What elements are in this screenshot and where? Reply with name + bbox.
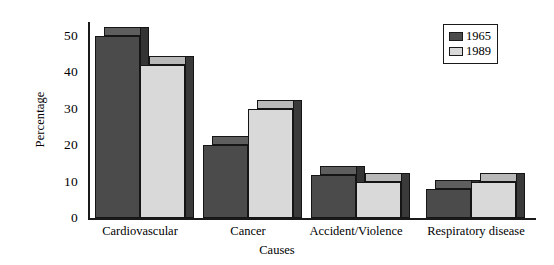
y-tick-label: 10 — [50, 175, 78, 189]
legend-swatch-icon-1989 — [449, 47, 463, 56]
x-category-label-cardiovascular: Cardiovascular — [80, 224, 200, 239]
y-tick-10: 10 — [50, 175, 78, 189]
bar-front-face — [140, 65, 185, 218]
y-axis-line — [88, 22, 90, 219]
bar-1965-respiratory-disease — [426, 189, 471, 218]
bar-side-face — [293, 100, 302, 218]
legend-item-1965: 1965 — [449, 29, 491, 44]
legend-label-1965: 1965 — [466, 30, 491, 43]
bar-front-face — [356, 182, 401, 218]
y-tick-50: 50 — [50, 29, 78, 43]
x-axis-title: Causes — [0, 243, 554, 258]
y-axis-title: Percentage — [33, 60, 48, 180]
y-tick-label: 20 — [50, 138, 78, 152]
bar-front-face — [95, 36, 140, 218]
y-tick-0: 0 — [50, 211, 78, 225]
bar-chart: Percentage 0 10 20 30 40 50 — [0, 0, 554, 265]
y-tick-label: 50 — [50, 29, 78, 43]
legend-item-1989: 1989 — [449, 44, 491, 59]
bar-side-face — [185, 56, 194, 218]
bar-1965-cardiovascular — [95, 36, 140, 218]
bar-front-face — [471, 182, 516, 218]
y-tick-label: 0 — [50, 211, 78, 225]
bar-front-face — [426, 189, 471, 218]
bar-1989-cancer — [248, 109, 293, 218]
bar-1965-cancer — [203, 145, 248, 218]
bar-side-face — [401, 173, 410, 218]
chart-legend: 1965 1989 — [443, 24, 498, 64]
bar-1965-accident-violence — [311, 175, 356, 218]
bar-front-face — [248, 109, 293, 218]
bar-front-face — [311, 175, 356, 218]
y-tick-30: 30 — [50, 102, 78, 116]
legend-label-1989: 1989 — [466, 45, 491, 58]
x-category-label-respiratory-disease: Respiratory disease — [401, 224, 551, 239]
bar-1989-cardiovascular — [140, 65, 185, 218]
y-tick-20: 20 — [50, 138, 78, 152]
y-tick-40: 40 — [50, 65, 78, 79]
legend-swatch-icon-1965 — [449, 32, 463, 41]
bar-front-face — [203, 145, 248, 218]
bar-side-face — [516, 173, 525, 218]
bar-1989-accident-violence — [356, 182, 401, 218]
bar-1989-respiratory-disease — [471, 182, 516, 218]
y-tick-label: 30 — [50, 102, 78, 116]
x-axis-line — [88, 218, 536, 220]
y-tick-label: 40 — [50, 65, 78, 79]
